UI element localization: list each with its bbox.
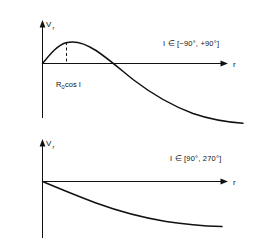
x-axis-arrow-top	[221, 61, 229, 67]
legend-inclination-range-bottom: I ∈ [90°, 270°]	[170, 154, 221, 163]
y-axis-label-subscript-top: r	[53, 25, 55, 31]
radial-velocity-curve-bottom	[43, 182, 223, 227]
y-axis-label-subscript-bottom: r	[53, 144, 55, 150]
chart-panel-top: V r r R 0 cos I I ∈ [−90°, +90°]	[0, 0, 258, 125]
x-axis-label-top: r	[233, 60, 236, 69]
y-axis-arrow-top	[40, 20, 46, 28]
peak-annotation-rest: cos I	[65, 80, 81, 89]
y-axis-arrow-bottom	[40, 139, 46, 147]
figure-container: V r r R 0 cos I I ∈ [−90°, +90°] V r	[0, 0, 258, 249]
x-axis-arrow-bottom	[221, 179, 229, 185]
y-axis-label-top: V	[46, 20, 52, 29]
y-axis-label-bottom: V	[46, 139, 52, 148]
legend-inclination-range-top: I ∈ [−90°, +90°]	[163, 39, 219, 48]
chart-panel-bottom: V r r I ∈ [90°, 270°]	[0, 125, 258, 249]
x-axis-label-bottom: r	[233, 178, 236, 187]
